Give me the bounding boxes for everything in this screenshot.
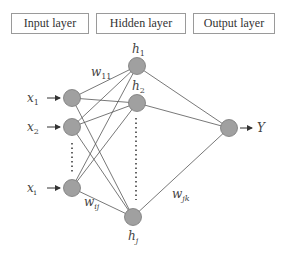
input-arrows	[47, 98, 60, 188]
input-node-x2	[64, 119, 81, 136]
label-x1: x1	[27, 91, 39, 107]
label-y: Y	[257, 121, 266, 135]
input-hidden-edges	[72, 66, 137, 217]
label-x2: x2	[27, 120, 39, 136]
hidden-node-h1	[129, 58, 146, 75]
label-h2: h2	[132, 79, 145, 95]
weight-label-wjk: wjk	[172, 187, 190, 203]
label-hj: hj	[128, 229, 139, 245]
output-node	[221, 120, 238, 137]
hidden-node-h2	[129, 95, 146, 112]
hidden-node-hj	[125, 209, 142, 226]
input-node-xi	[64, 180, 81, 197]
weight-label-wij: wij	[84, 195, 100, 211]
input-node-x1	[64, 90, 81, 107]
label-h1: h1	[132, 42, 145, 58]
label-xi: xi	[27, 181, 37, 197]
weight-label-w11: w11	[91, 65, 111, 81]
neural-network-diagram: x1 x2 xi h1 h2 hj Y w11 wij wjk	[0, 0, 285, 258]
